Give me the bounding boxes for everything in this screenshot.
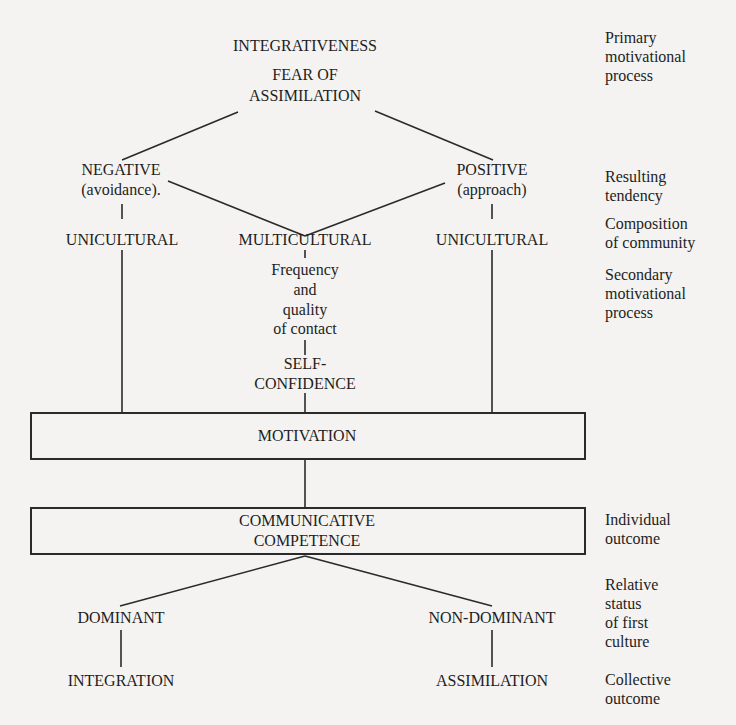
side-label-collective: Collective outcome — [605, 670, 671, 708]
side-label-secondary: Secondary motivational process — [605, 265, 686, 322]
node-assimilation-fear: ASSIMILATION — [249, 86, 361, 106]
motivation-box: MOTIVATION — [30, 412, 586, 460]
side-label-individual: Individual outcome — [605, 510, 671, 548]
node-self-confidence-1: SELF- — [284, 354, 327, 374]
node-negative-sub: (avoidance). — [81, 180, 161, 200]
side-label-primary: Primary motivational process — [605, 28, 686, 85]
node-contact-frequency: Frequency — [271, 260, 339, 280]
side-label-relative: Relative status of first culture — [605, 575, 658, 651]
node-non-dominant: NON-DOMINANT — [428, 608, 555, 628]
node-contact-of-contact: of contact — [273, 319, 337, 339]
side-label-composition: Composition of community — [605, 214, 695, 252]
node-positive-sub: (approach) — [457, 180, 526, 200]
competence-box: COMMUNICATIVE COMPETENCE — [30, 507, 586, 555]
node-positive: POSITIVE — [456, 160, 527, 180]
node-integrativeness: INTEGRATIVENESS — [233, 36, 377, 56]
node-multicultural: MULTICULTURAL — [238, 230, 371, 250]
node-contact-quality: quality — [283, 300, 327, 320]
node-negative: NEGATIVE — [81, 160, 160, 180]
side-label-resulting: Resulting tendency — [605, 167, 666, 205]
node-contact-and: and — [293, 280, 316, 300]
node-fear-of: FEAR OF — [272, 65, 337, 85]
node-self-confidence-2: CONFIDENCE — [254, 374, 355, 394]
node-dominant: DOMINANT — [77, 608, 164, 628]
node-unicultural-left: UNICULTURAL — [66, 230, 178, 250]
node-communicative: COMMUNICATIVE — [239, 511, 375, 531]
node-unicultural-right: UNICULTURAL — [436, 230, 548, 250]
node-competence: COMPETENCE — [254, 531, 361, 551]
node-motivation: MOTIVATION — [258, 426, 356, 446]
node-assimilation-outcome: ASSIMILATION — [436, 671, 548, 691]
node-integration: INTEGRATION — [68, 671, 175, 691]
